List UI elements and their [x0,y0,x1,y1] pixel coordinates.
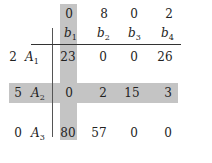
row-value: 5 [11,86,25,100]
matrix-cell: 0 [91,50,115,64]
column-value: 2 [157,7,181,21]
matrix-cell: 0 [57,86,81,100]
matrix-cell: 15 [120,86,144,100]
column-label: b1 [64,26,77,45]
matrix-cell: 80 [56,126,80,140]
column-value: 0 [57,7,81,21]
column-value: 8 [92,7,116,21]
matrix-cell: 0 [122,126,146,140]
row-value: 0 [11,126,25,140]
matrix-cell: 23 [56,50,80,64]
matrix-cell: 0 [122,50,146,64]
column-value: 0 [122,7,146,21]
row-value: 2 [6,50,20,64]
matrix-cell: 2 [91,86,115,100]
matrix-cell: 57 [87,126,111,140]
column-label: b2 [97,26,110,45]
matrix-cell: 26 [153,50,177,64]
row-label: A2 [31,86,45,105]
column-label: b4 [161,26,174,45]
row-label: A3 [31,126,45,145]
matrix-cell: 3 [156,86,180,100]
highlighted-column-b1 [60,4,77,140]
matrix-cell: 0 [156,126,180,140]
row-label: A1 [25,50,39,69]
column-label: b3 [128,26,141,45]
